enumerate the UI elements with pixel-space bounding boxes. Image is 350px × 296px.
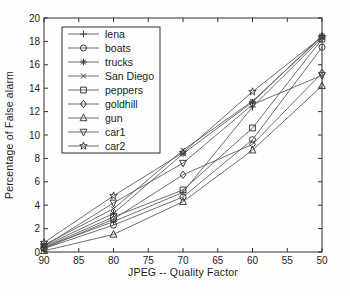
y-tick-label: 16 [29,59,41,70]
y-tick-label: 18 [29,36,41,47]
chart-figure: 90858075706560555002468101214161820lenab… [0,0,350,296]
triangle-down-marker [180,160,187,167]
x-axis-label: JPEG -- Quality Factor [44,266,322,278]
x-tick-label: 85 [73,255,85,266]
legend-label: gun [105,112,123,124]
y-tick-label: 12 [29,106,41,117]
legend-label: boats [105,42,131,54]
triangle-down-marker [110,200,117,207]
asterisk-marker [80,59,87,66]
x-tick-label: 70 [177,255,189,266]
y-tick-label: 20 [29,13,41,24]
legend-label: peppers [105,84,143,96]
legend-label: San Diego [105,70,154,82]
legend-label: car2 [105,140,126,152]
x-tick-label: 55 [282,255,294,266]
y-tick-label: 14 [29,83,41,94]
y-tick-label: 4 [34,200,40,211]
x-tick-label: 80 [108,255,120,266]
y-tick-label: 6 [34,176,40,187]
x-tick-label: 60 [247,255,259,266]
legend-label: lena [105,28,125,40]
legend: lenaboatstrucksSan Diegopeppersgoldhillg… [62,27,160,153]
y-tick-label: 0 [34,247,40,258]
x-tick-label: 90 [38,255,50,266]
line-chart: 90858075706560555002468101214161820lenab… [0,0,350,296]
x-tick-label: 65 [212,255,224,266]
legend-label: car1 [105,126,126,138]
legend-label: trucks [105,56,133,68]
x-tick-label: 50 [316,255,328,266]
y-tick-label: 10 [29,130,41,141]
x-tick-label: 75 [143,255,155,266]
triangle-up-marker [110,231,117,238]
y-tick-label: 8 [34,153,40,164]
legend-label: goldhill [105,98,138,110]
y-tick-label: 2 [34,223,40,234]
y-axis-label: Percentage of False alarm [3,60,15,210]
